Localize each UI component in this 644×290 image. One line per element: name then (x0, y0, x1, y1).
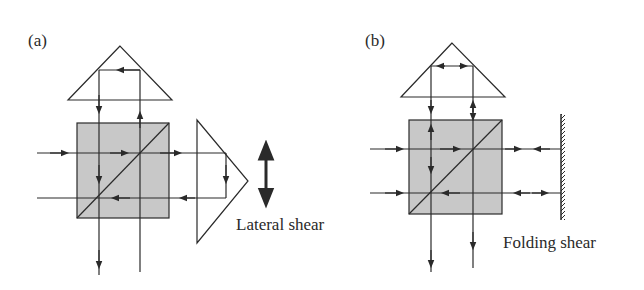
panel-b: (b) (365, 31, 596, 272)
caption-folding-shear: Folding shear (503, 233, 596, 252)
top-prism (68, 46, 172, 100)
caption-lateral-shear: Lateral shear (236, 215, 325, 234)
mirror-hatching (561, 114, 565, 220)
panel-a-label: (a) (28, 31, 47, 50)
shear-interferometer-diagram: (a) (0, 0, 644, 290)
panel-a: (a) (28, 31, 325, 275)
top-prism (401, 43, 505, 97)
panel-b-label: (b) (365, 31, 385, 50)
